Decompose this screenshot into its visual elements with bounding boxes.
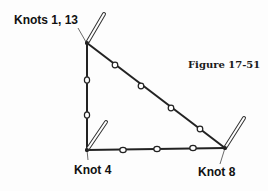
figure-canvas: Knots 1, 13 Figure 17-51 Knot 4 Knot 8 — [0, 0, 268, 191]
leader-line-top — [78, 28, 86, 42]
bead-icon — [112, 62, 118, 68]
knot-icon — [85, 148, 89, 152]
figure-caption: Figure 17-51 — [188, 60, 260, 70]
bead-icon — [154, 146, 160, 151]
stick-icon — [225, 118, 244, 148]
label-knot-8: Knot 8 — [198, 166, 235, 178]
bead-icon — [84, 77, 89, 83]
bead-icon — [120, 147, 126, 152]
label-knot-4: Knot 4 — [74, 164, 111, 176]
leader-line-knot8 — [220, 148, 225, 164]
bead-icon — [138, 83, 144, 89]
bead-icon — [84, 112, 89, 118]
knot-icon — [85, 41, 89, 45]
stick-icon — [87, 122, 106, 150]
bead-icon — [190, 145, 196, 150]
label-knots-1-13: Knots 1, 13 — [14, 14, 78, 26]
bead-icon — [168, 105, 174, 111]
stick-icon — [87, 14, 104, 43]
knot-triangle-diagram — [0, 0, 268, 191]
knot-icon — [223, 146, 227, 150]
beads — [84, 62, 202, 152]
bead-icon — [197, 126, 203, 132]
